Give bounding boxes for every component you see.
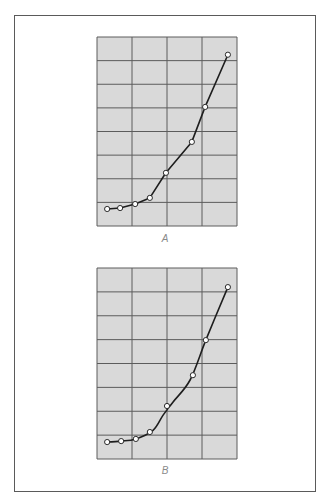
data-point-marker <box>147 195 152 200</box>
data-point-marker <box>203 338 208 343</box>
data-point-marker <box>225 285 230 290</box>
data-point-marker <box>189 139 194 144</box>
data-point-marker <box>164 403 169 408</box>
data-point-marker <box>163 170 168 175</box>
chart-panel-a <box>97 37 237 226</box>
chart-panel-b <box>97 268 237 459</box>
data-point-marker <box>118 205 123 210</box>
data-point-marker <box>225 52 230 57</box>
data-point-marker <box>105 439 110 444</box>
data-point-marker <box>190 373 195 378</box>
data-point-marker <box>119 438 124 443</box>
data-point-marker <box>105 206 110 211</box>
panel-label-b: B <box>155 465 175 476</box>
data-point-marker <box>147 429 152 434</box>
figure-canvas <box>0 0 330 503</box>
data-point-marker <box>203 104 208 109</box>
panel-label-a: A <box>155 233 175 244</box>
data-point-marker <box>133 436 138 441</box>
data-point-marker <box>133 201 138 206</box>
